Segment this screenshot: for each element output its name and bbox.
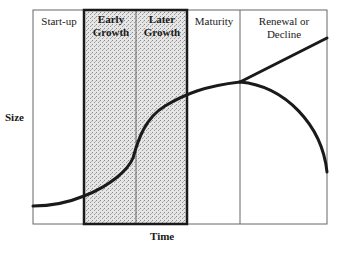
y-axis-label: Size [5, 111, 24, 123]
stage-label-renewal-decline: Renewal or Decline [241, 15, 327, 41]
stage-label-maturity: Maturity [188, 15, 240, 28]
stage-label-renewal-line1: Renewal or [241, 15, 327, 28]
stage-label-later-growth-line1: Later [137, 13, 187, 26]
stage-label-renewal-line2: Decline [241, 28, 327, 41]
stage-label-early-growth-line1: Early [86, 13, 136, 26]
x-axis-label: Time [150, 230, 174, 242]
stage-label-startup: Start-up [34, 15, 84, 28]
stage-label-early-growth: Early Growth [86, 13, 136, 39]
stage-label-later-growth: Later Growth [137, 13, 187, 39]
stage-label-later-growth-line2: Growth [137, 26, 187, 39]
stage-label-early-growth-line2: Growth [86, 26, 136, 39]
